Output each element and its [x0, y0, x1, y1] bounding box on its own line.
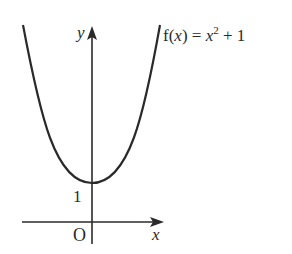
origin-label: O: [73, 225, 86, 245]
x-axis-label: x: [151, 225, 160, 244]
graph-canvas: y 1 O x f(x) = x2 + 1: [0, 0, 292, 254]
y-axis-label: y: [75, 23, 85, 42]
function-label: f(x) = x2 + 1: [163, 24, 245, 45]
y-intercept-label: 1: [73, 187, 82, 206]
